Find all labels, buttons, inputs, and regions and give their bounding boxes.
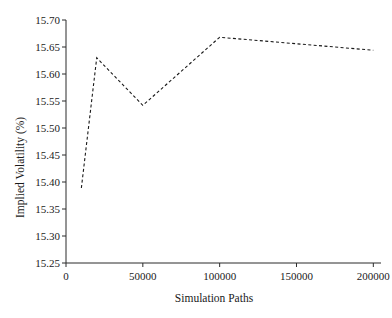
y-axis-title: Implied Volatility (%)	[14, 117, 26, 218]
y-axis-tick-label: 15.25	[18, 258, 60, 269]
x-axis-title: Simulation Paths	[175, 292, 253, 304]
implied-volatility-chart: 15.2515.3015.3515.4015.4515.5015.5515.60…	[0, 0, 392, 318]
y-axis-tick-label: 15.70	[18, 15, 60, 26]
data-series-line	[81, 37, 373, 188]
y-axis-tick-label: 15.65	[18, 42, 60, 53]
x-axis-tick-label: 0	[63, 271, 69, 282]
y-axis-tick-label: 15.55	[18, 96, 60, 107]
x-axis-tick-label: 100000	[203, 271, 236, 282]
x-axis-tick-label: 50000	[129, 271, 157, 282]
y-axis-ticks	[62, 20, 66, 263]
x-axis-tick-label: 200000	[357, 271, 390, 282]
y-axis-tick-label: 15.60	[18, 69, 60, 80]
x-axis-tick-label: 150000	[280, 271, 313, 282]
y-axis-tick-label: 15.30	[18, 231, 60, 242]
x-axis-ticks	[66, 263, 373, 267]
